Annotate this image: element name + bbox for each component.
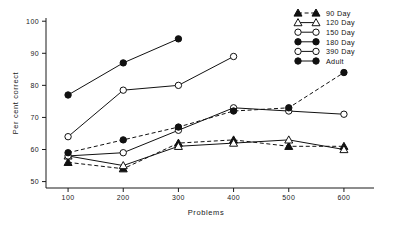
series-line	[68, 140, 344, 166]
data-point	[230, 53, 236, 59]
data-point	[286, 105, 292, 111]
data-point	[295, 58, 301, 64]
data-point	[120, 87, 126, 93]
data-point	[295, 29, 301, 35]
series-390-day	[65, 53, 237, 140]
x-tick-label: 100	[62, 194, 75, 201]
data-point	[120, 137, 126, 143]
data-point	[65, 133, 71, 139]
x-tick-label: 600	[337, 194, 350, 201]
y-tick-label: 80	[30, 82, 39, 89]
data-point	[313, 58, 319, 64]
data-point	[65, 92, 71, 98]
legend-label: 120 Day	[326, 18, 355, 27]
data-point	[230, 108, 236, 114]
axes: 1009080706050100200300400500600ProblemsP…	[11, 18, 374, 217]
legend-label: 90 Day	[326, 9, 351, 18]
series-line	[68, 56, 234, 136]
data-point	[295, 48, 301, 54]
legend-item-90-day[interactable]: 90 Day	[294, 9, 351, 18]
chart-legend: 90 Day120 Day150 Day180 Day390 DayAdult	[294, 9, 355, 66]
data-point	[341, 111, 347, 117]
legend-label: 390 Day	[326, 47, 355, 56]
legend-label: 150 Day	[326, 28, 355, 37]
legend-item-180-day[interactable]: 180 Day	[295, 38, 355, 47]
x-tick-label: 400	[227, 194, 240, 201]
series-line	[68, 73, 344, 153]
chart-figure: 1009080706050100200300400500600ProblemsP…	[0, 0, 409, 236]
data-point	[120, 150, 126, 156]
legend-label: Adult	[326, 57, 344, 66]
line-chart: 1009080706050100200300400500600ProblemsP…	[0, 0, 409, 236]
series-120-day	[64, 136, 348, 169]
y-tick-label: 90	[30, 50, 39, 57]
series-line	[68, 108, 344, 156]
data-point	[175, 124, 181, 130]
x-tick-label: 500	[282, 194, 295, 201]
data-point	[65, 150, 71, 156]
data-point	[313, 39, 319, 45]
legend-item-150-day[interactable]: 150 Day	[295, 28, 355, 37]
y-tick-label: 60	[30, 146, 39, 153]
y-axis-title: Per cent correct	[11, 71, 20, 134]
legend-item-adult[interactable]: Adult	[295, 57, 344, 66]
x-tick-label: 200	[117, 194, 130, 201]
data-point	[285, 136, 293, 143]
data-point	[120, 60, 126, 66]
data-point	[341, 69, 347, 75]
y-tick-label: 70	[30, 114, 39, 121]
x-axis-title: Problems	[188, 208, 224, 217]
legend-label: 180 Day	[326, 38, 355, 47]
y-tick-label: 50	[30, 178, 39, 185]
data-point	[295, 39, 301, 45]
legend-item-390-day[interactable]: 390 Day	[295, 47, 355, 56]
x-tick-label: 300	[172, 194, 185, 201]
data-point	[313, 48, 319, 54]
data-point	[313, 29, 319, 35]
legend-item-120-day[interactable]: 120 Day	[294, 18, 355, 27]
y-tick-label: 100	[26, 18, 39, 25]
series-150-day	[65, 105, 347, 160]
data-point	[175, 36, 181, 42]
data-point	[175, 82, 181, 88]
